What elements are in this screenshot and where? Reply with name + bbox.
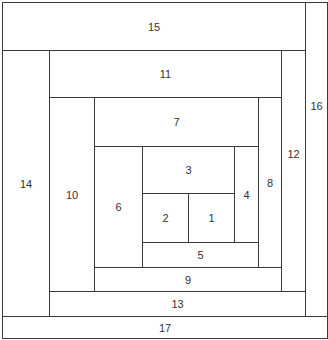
block-label: 6 <box>115 201 121 213</box>
block-17: 17 <box>2 316 328 339</box>
block-label: 17 <box>159 322 171 334</box>
block-2: 2 <box>142 193 189 243</box>
block-9: 9 <box>94 267 282 292</box>
block-16: 16 <box>305 2 328 317</box>
block-label: 10 <box>66 189 78 201</box>
block-11: 11 <box>49 50 282 98</box>
block-label: 7 <box>173 116 179 128</box>
block-4: 4 <box>234 146 259 243</box>
block-label: 2 <box>162 212 168 224</box>
block-14: 14 <box>2 50 50 317</box>
block-label: 15 <box>148 21 160 33</box>
block-label: 1 <box>208 212 214 224</box>
block-label: 8 <box>267 177 273 189</box>
block-label: 16 <box>310 100 322 112</box>
block-15: 15 <box>2 2 306 51</box>
block-7: 7 <box>94 97 259 147</box>
block-label: 4 <box>243 189 249 201</box>
block-label: 12 <box>287 148 299 160</box>
block-label: 9 <box>185 274 191 286</box>
block-label: 13 <box>171 298 183 310</box>
block-8: 8 <box>258 97 282 268</box>
block-label: 11 <box>160 68 171 80</box>
block-12: 12 <box>281 50 306 292</box>
block-5: 5 <box>142 242 259 268</box>
block-1: 1 <box>188 193 235 243</box>
block-6: 6 <box>94 146 143 268</box>
block-label: 3 <box>185 164 191 176</box>
block-10: 10 <box>49 97 95 292</box>
block-13: 13 <box>49 291 306 317</box>
block-label: 14 <box>20 178 32 190</box>
block-label: 5 <box>197 249 203 261</box>
block-3: 3 <box>142 146 235 194</box>
